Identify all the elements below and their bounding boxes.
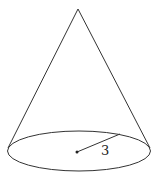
cone-right-slant	[78, 9, 150, 148]
cone-figure: 3	[0, 0, 158, 180]
center-point	[76, 151, 79, 154]
cone-left-slant	[8, 9, 78, 148]
cone-diagram: 3	[0, 0, 158, 180]
radius-label: 3	[101, 143, 109, 158]
radius-line	[77, 134, 120, 152]
